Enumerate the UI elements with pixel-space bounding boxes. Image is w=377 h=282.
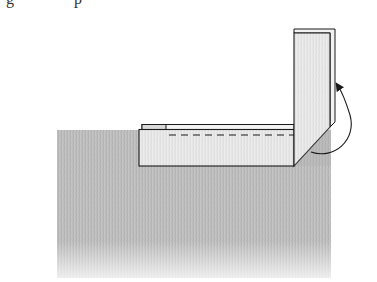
horizontal-flap [139,125,294,167]
fold-diagram [0,0,377,282]
vertical-flap [294,29,335,166]
